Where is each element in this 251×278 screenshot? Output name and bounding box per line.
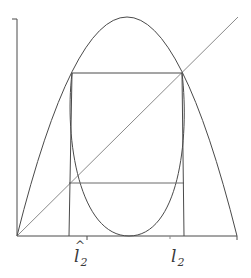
label-subscript: 2 — [177, 256, 184, 269]
hat-accent: ^ — [75, 240, 85, 252]
inner-curve — [70, 73, 184, 236]
label-subscript: 2 — [80, 256, 87, 269]
label-l2: l2 — [171, 248, 184, 268]
label-base: l — [171, 246, 176, 266]
label-l2-hat: ^ l2 — [74, 248, 87, 268]
cobweb-diagram — [0, 0, 251, 278]
